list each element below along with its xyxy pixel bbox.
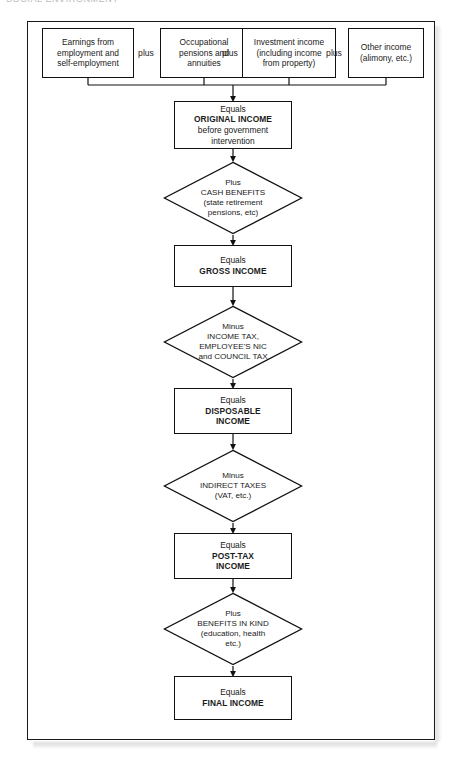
operation-line-2: (education, health bbox=[201, 629, 265, 639]
operation-diamond-benefits-in-kind: Plus BENEFITS IN KIND (education, health… bbox=[163, 592, 303, 666]
operation-line-2: (state retirement bbox=[204, 198, 263, 208]
operation-line-3: and COUNCIL TAX bbox=[198, 352, 267, 362]
operation-line-1: BENEFITS IN KIND bbox=[197, 619, 269, 629]
source-line-2: employment and bbox=[57, 48, 119, 59]
stage-lead: Equals bbox=[220, 687, 246, 698]
source-line-1: Earnings from bbox=[62, 37, 114, 48]
operation-diamond-cash-benefits: Plus CASH BENEFITS (state retirement pen… bbox=[163, 161, 303, 235]
stage-box-original-income: Equals ORIGINAL INCOME before government… bbox=[174, 101, 292, 149]
source-line-3: self-employment bbox=[57, 58, 118, 69]
operation-op: Minus bbox=[222, 471, 244, 481]
operation-line-3: pensions, etc) bbox=[208, 208, 258, 218]
stage-sub-1: before government bbox=[198, 125, 268, 136]
stage-key: ORIGINAL INCOME bbox=[194, 114, 272, 125]
stage-key-2: INCOME bbox=[216, 561, 250, 572]
plus-operator-1: plus bbox=[133, 48, 159, 58]
stage-lead: Equals bbox=[220, 104, 246, 115]
operation-op: Plus bbox=[225, 609, 241, 619]
operation-line-1: INCOME TAX, bbox=[207, 332, 259, 342]
source-line-2: (including income bbox=[256, 48, 321, 59]
stage-key: DISPOSABLE bbox=[205, 406, 260, 417]
source-line-3: annuities bbox=[187, 58, 221, 69]
stage-key-2: INCOME bbox=[216, 416, 250, 427]
stage-lead: Equals bbox=[220, 255, 246, 266]
operation-op: Plus bbox=[225, 178, 241, 188]
stage-key: FINAL INCOME bbox=[202, 698, 264, 709]
operation-line-2: EMPLOYEE'S NIC bbox=[199, 342, 267, 352]
operation-line-1: CASH BENEFITS bbox=[201, 188, 265, 198]
operation-line-2: (VAT, etc.) bbox=[215, 491, 252, 501]
stage-box-final-income: Equals FINAL INCOME bbox=[174, 676, 292, 720]
operation-diamond-direct-taxes: Minus INCOME TAX, EMPLOYEE'S NIC and COU… bbox=[163, 305, 303, 379]
source-line-3: from property) bbox=[263, 58, 316, 69]
stage-key: GROSS INCOME bbox=[199, 266, 266, 277]
stage-box-gross-income: Equals GROSS INCOME bbox=[174, 245, 292, 287]
source-box-earnings: Earnings from employment and self-employ… bbox=[42, 28, 134, 78]
plus-operator-3: plus bbox=[321, 48, 347, 58]
source-line-2: (alimony, etc.) bbox=[360, 53, 412, 64]
stage-box-post-tax-income: Equals POST-TAX INCOME bbox=[174, 533, 292, 579]
operation-op: Minus bbox=[222, 322, 244, 332]
source-box-other-income: Other income (alimony, etc.) bbox=[348, 28, 424, 78]
stage-lead: Equals bbox=[220, 540, 246, 551]
source-line-1: Investment income bbox=[254, 37, 324, 48]
source-line-1: Other income bbox=[361, 42, 411, 53]
plus-operator-2: plus bbox=[217, 48, 243, 58]
operation-diamond-indirect-taxes: Minus INDIRECT TAXES (VAT, etc.) bbox=[163, 449, 303, 523]
stage-sub-2: intervention bbox=[211, 136, 254, 147]
stage-lead: Equals bbox=[220, 395, 246, 406]
stage-box-disposable-income: Equals DISPOSABLE INCOME bbox=[174, 388, 292, 434]
operation-line-3: etc.) bbox=[225, 639, 241, 649]
operation-line-1: INDIRECT TAXES bbox=[200, 481, 266, 491]
source-line-1: Occupational bbox=[180, 37, 229, 48]
stage-key: POST-TAX bbox=[212, 551, 254, 562]
